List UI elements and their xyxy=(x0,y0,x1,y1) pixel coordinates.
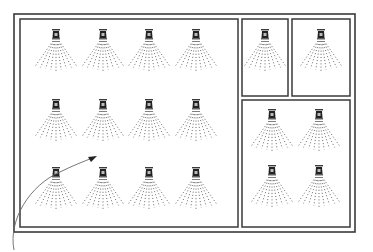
sprinkler-head-icon xyxy=(82,99,124,141)
sprinkler-head-icon xyxy=(251,109,293,151)
sprinkler-head-icon xyxy=(82,29,124,71)
sprinkler-head-icon xyxy=(128,167,170,209)
arrowhead-icon xyxy=(88,156,97,162)
sprinkler-head-icon xyxy=(35,29,77,71)
sprinkler-head-icon xyxy=(175,29,217,71)
sprinkler-head-icon xyxy=(82,167,124,209)
outer-frame xyxy=(14,14,355,232)
sprinkler-layer xyxy=(35,29,342,209)
sprinkler-head-icon xyxy=(175,167,217,209)
room-4 xyxy=(242,100,350,227)
sprinkler-head-icon xyxy=(300,29,342,71)
diagram-svg xyxy=(0,0,373,252)
sprinkler-head-icon xyxy=(298,165,340,207)
sprinkler-head-icon xyxy=(35,99,77,141)
sprinkler-head-icon xyxy=(298,109,340,151)
room-frames xyxy=(14,14,355,232)
sprinkler-head-icon xyxy=(35,167,77,209)
sprinkler-head-icon xyxy=(175,99,217,141)
sprinkler-head-icon xyxy=(251,165,293,207)
sprinkler-head-icon xyxy=(128,29,170,71)
sprinkler-head-icon xyxy=(128,99,170,141)
sprinkler-floor-plan xyxy=(0,0,373,252)
sprinkler-head-icon xyxy=(244,29,286,71)
